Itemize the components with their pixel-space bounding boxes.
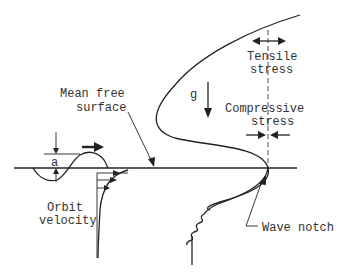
wave-notch-diagram: g Tensile stress Compressive stress Mean…	[0, 0, 357, 274]
orbit-velocity-label-line2: velocity	[39, 214, 97, 228]
wavy-crack-segment	[187, 214, 204, 245]
tensile-arrow-left-icon	[252, 37, 260, 45]
orbit-velocity-profile-curve	[98, 170, 128, 258]
gravity-label: g	[190, 88, 197, 102]
wave-notch-leader-arrow-icon	[259, 175, 266, 185]
compressive-arrow-left-icon	[258, 131, 266, 139]
mean-free-surface-leader-line	[128, 112, 152, 162]
wave-direction-arrow-icon	[94, 142, 104, 152]
tensile-label-line1: Tensile	[247, 50, 297, 64]
gravity-arrow-icon	[204, 108, 212, 118]
amplitude-top-arrow-icon	[53, 148, 59, 154]
mean-free-surface-label-line2: surface	[76, 101, 126, 115]
amplitude-label: a	[51, 156, 58, 170]
tensile-label-line2: stress	[250, 63, 293, 77]
compressive-label-line2: stress	[251, 115, 294, 129]
compressive-arrow-right-icon	[270, 131, 278, 139]
orbit-velocity-label-line1: Orbit	[47, 201, 83, 215]
wave-notch-label: Wave notch	[262, 221, 334, 235]
mean-free-surface-label-line1: Mean free	[60, 87, 125, 101]
tensile-arrow-right-icon	[278, 37, 286, 45]
compressive-label-line1: Compressive	[225, 102, 304, 116]
mean-free-surface-leader-arrow-icon	[148, 157, 155, 167]
